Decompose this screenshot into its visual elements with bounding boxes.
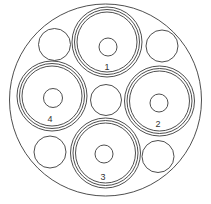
core-1: 1 bbox=[72, 7, 142, 77]
core-3-label: 3 bbox=[100, 172, 105, 182]
filler-bottom-right bbox=[142, 141, 174, 173]
core-4-conductor bbox=[44, 89, 63, 108]
core-2-label: 2 bbox=[155, 119, 160, 129]
outer-jacket-circle bbox=[10, 4, 202, 196]
core-3-conductor bbox=[95, 145, 113, 163]
core-1-label: 1 bbox=[104, 62, 109, 72]
core-4: 4 bbox=[17, 61, 87, 131]
filler-top-right bbox=[146, 30, 178, 62]
cable-cross-section-diagram: 1234 bbox=[0, 0, 211, 204]
filler-bottom-left bbox=[34, 136, 66, 168]
core-group: 1234 bbox=[17, 7, 195, 188]
filler-top-left bbox=[39, 29, 71, 61]
core-3: 3 bbox=[71, 118, 141, 188]
filler-center bbox=[91, 85, 122, 116]
outer-jacket bbox=[10, 4, 202, 196]
core-2-conductor bbox=[150, 94, 168, 112]
core-4-label: 4 bbox=[47, 114, 52, 124]
core-1-conductor bbox=[99, 38, 117, 56]
core-2: 2 bbox=[125, 66, 195, 136]
filler-group bbox=[34, 29, 178, 173]
